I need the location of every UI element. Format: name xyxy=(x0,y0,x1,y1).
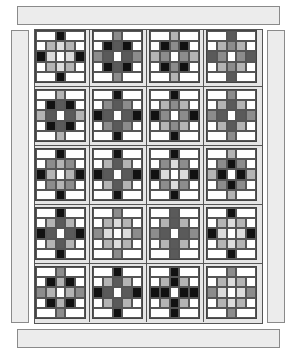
quilt-patch xyxy=(236,308,256,318)
quilt-patch xyxy=(227,298,237,308)
quilt-block-r4-c1 xyxy=(92,266,143,319)
quilt-patch xyxy=(46,121,56,131)
quilt-patch xyxy=(122,180,132,190)
quilt-patch xyxy=(36,72,56,82)
quilt-patch xyxy=(170,110,180,120)
quilt-patch xyxy=(132,218,142,228)
quilt-patch xyxy=(227,159,237,169)
quilt-patch xyxy=(56,131,66,141)
quilt-patch xyxy=(189,62,199,72)
quilt-patch xyxy=(170,228,180,238)
quilt-patch xyxy=(150,180,160,190)
quilt-patch xyxy=(246,218,256,228)
sashing-line xyxy=(89,30,90,322)
quilt-patch xyxy=(132,100,142,110)
quilt-patch xyxy=(170,180,180,190)
quilt-patch xyxy=(170,31,180,41)
quilt-patch xyxy=(217,110,227,120)
quilt-patch xyxy=(36,190,56,200)
quilt-patch xyxy=(179,51,189,61)
quilt-patch xyxy=(236,149,256,159)
quilt-patch xyxy=(36,31,56,41)
quilt-patch xyxy=(132,287,142,297)
quilt-patch xyxy=(160,110,170,120)
quilt-patch xyxy=(65,110,75,120)
quilt-patch xyxy=(150,249,170,259)
quilt-patch xyxy=(246,287,256,297)
quilt-patch xyxy=(56,90,66,100)
quilt-patch xyxy=(122,287,132,297)
quilt-patch xyxy=(246,121,256,131)
quilt-patch xyxy=(217,218,227,228)
quilt-patch xyxy=(103,180,113,190)
quilt-patch xyxy=(113,121,123,131)
quilt-patch xyxy=(227,169,237,179)
quilt-patch xyxy=(113,277,123,287)
quilt-patch xyxy=(236,180,246,190)
quilt-patch xyxy=(207,51,217,61)
quilt-patch xyxy=(207,149,227,159)
quilt-patch xyxy=(179,149,199,159)
quilt-patch xyxy=(46,62,56,72)
quilt-patch xyxy=(75,41,85,51)
quilt-bottom-border xyxy=(17,329,280,348)
quilt-patch xyxy=(113,180,123,190)
quilt-patch xyxy=(150,267,170,277)
quilt-patch xyxy=(189,100,199,110)
quilt-patch xyxy=(46,180,56,190)
quilt-patch xyxy=(179,308,199,318)
quilt-patch xyxy=(122,208,142,218)
quilt-left-border xyxy=(11,30,29,323)
quilt-patch xyxy=(122,228,132,238)
quilt-patch xyxy=(93,31,113,41)
quilt-patch xyxy=(207,72,227,82)
quilt-patch xyxy=(36,110,46,120)
quilt-patch xyxy=(122,169,132,179)
quilt-patch xyxy=(65,180,75,190)
quilt-patch xyxy=(75,228,85,238)
quilt-block-r4-c0 xyxy=(35,266,86,319)
quilt-patch xyxy=(93,190,113,200)
quilt-patch xyxy=(113,51,123,61)
quilt-patch xyxy=(103,218,113,228)
quilt-patch xyxy=(160,298,170,308)
quilt-patch xyxy=(36,149,56,159)
quilt-patch xyxy=(207,308,227,318)
quilt-patch xyxy=(113,218,123,228)
quilt-patch xyxy=(65,131,85,141)
quilt-patch xyxy=(113,110,123,120)
quilt-patch xyxy=(122,277,132,287)
quilt-patch xyxy=(150,190,170,200)
quilt-block-r0-c1 xyxy=(92,30,143,83)
quilt-patch xyxy=(246,277,256,287)
quilt-patch xyxy=(56,249,66,259)
quilt-patch xyxy=(122,72,142,82)
quilt-patch xyxy=(170,277,180,287)
quilt-patch xyxy=(227,239,237,249)
quilt-patch xyxy=(236,121,246,131)
quilt-patch xyxy=(179,249,199,259)
quilt-patch xyxy=(122,298,132,308)
quilt-patch xyxy=(246,169,256,179)
quilt-patch xyxy=(65,169,75,179)
quilt-patch xyxy=(189,180,199,190)
quilt-patch xyxy=(75,180,85,190)
quilt-patch xyxy=(103,62,113,72)
quilt-patch xyxy=(103,169,113,179)
quilt-block-r3-c2 xyxy=(149,207,200,260)
quilt-patch xyxy=(122,239,132,249)
quilt-patch xyxy=(227,208,237,218)
quilt-patch xyxy=(227,277,237,287)
quilt-patch xyxy=(150,90,170,100)
quilt-patch xyxy=(56,159,66,169)
quilt-patch xyxy=(65,208,85,218)
quilt-patch xyxy=(132,277,142,287)
quilt-patch xyxy=(246,180,256,190)
quilt-patch xyxy=(56,169,66,179)
quilt-patch xyxy=(236,267,256,277)
quilt-block-r0-c2 xyxy=(149,30,200,83)
quilt-patch xyxy=(189,228,199,238)
quilt-patch xyxy=(113,41,123,51)
sashing-line xyxy=(35,204,262,205)
quilt-patch xyxy=(132,180,142,190)
